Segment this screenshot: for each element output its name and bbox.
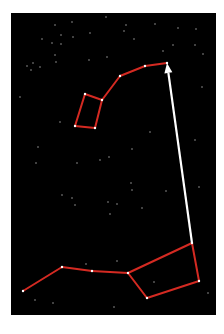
little-dipper-line	[102, 76, 120, 100]
big-dipper-line	[147, 281, 199, 298]
background-star	[177, 27, 178, 28]
background-star	[89, 32, 90, 33]
big-dipper-star-bd-merak	[198, 280, 200, 282]
background-star	[116, 203, 117, 204]
background-star	[30, 69, 31, 70]
background-star	[154, 23, 155, 24]
big-dipper-line	[128, 243, 192, 273]
background-star	[99, 159, 100, 160]
background-star	[26, 65, 27, 66]
background-star	[54, 54, 55, 55]
background-star	[71, 21, 72, 22]
background-star	[85, 263, 86, 264]
background-star	[131, 148, 132, 149]
big-dipper-star-bd-bowl-1	[127, 272, 129, 274]
background-star	[202, 53, 203, 54]
background-star	[108, 156, 109, 157]
pointer-arrow	[164, 63, 192, 243]
background-star	[71, 197, 72, 198]
background-star	[201, 86, 202, 87]
background-star	[125, 24, 126, 25]
big-dipper-star-bd-handle-3	[91, 270, 93, 272]
background-star	[39, 66, 40, 67]
background-star	[172, 44, 173, 45]
arrow-shaft	[168, 73, 192, 243]
constellation-stars	[22, 62, 200, 299]
little-dipper-line	[75, 126, 95, 128]
background-star	[88, 59, 89, 60]
background-star	[109, 213, 110, 214]
background-star	[59, 121, 60, 122]
background-star	[133, 38, 134, 39]
background-star	[60, 43, 61, 44]
background-star	[162, 50, 163, 51]
little-dipper-star-ld-6	[74, 125, 76, 127]
background-star	[37, 146, 38, 147]
big-dipper-star-bd-dubhe	[191, 242, 193, 244]
background-star	[60, 34, 61, 35]
background-star	[130, 182, 131, 183]
little-dipper-line	[145, 63, 167, 66]
background-star	[76, 162, 77, 163]
little-dipper-line	[85, 94, 102, 100]
big-dipper-line	[92, 271, 128, 273]
little-dipper-star-ld-4	[101, 99, 103, 101]
background-star	[52, 302, 53, 303]
background-star	[207, 292, 208, 293]
background-star	[106, 56, 107, 57]
background-star	[54, 24, 55, 25]
background-star	[113, 306, 114, 307]
little-dipper-star-ld-5	[84, 93, 86, 95]
big-dipper-star-bd-handle-end	[22, 290, 24, 292]
background-star	[195, 28, 196, 29]
background-star	[19, 96, 20, 97]
background-star	[51, 42, 52, 43]
star-chart	[0, 0, 224, 334]
little-dipper-star-ld-2	[144, 65, 146, 67]
little-dipper-star-ld-7	[94, 127, 96, 129]
little-dipper-line	[75, 94, 85, 126]
big-dipper-line	[192, 243, 199, 281]
background-star	[194, 44, 195, 45]
arrow-head-icon	[164, 63, 172, 73]
background-star	[123, 30, 124, 31]
background-star	[72, 36, 73, 37]
background-star	[165, 190, 166, 191]
little-dipper-star-ld-3	[119, 75, 121, 77]
background-star	[131, 189, 132, 190]
background-star	[153, 281, 154, 282]
background-star	[116, 260, 117, 261]
little-dipper-line	[95, 100, 102, 128]
background-star	[41, 38, 42, 39]
big-dipper-line	[128, 273, 147, 298]
background-star	[34, 299, 35, 300]
background-star	[107, 201, 108, 202]
big-dipper-line	[62, 267, 92, 271]
big-dipper-star-bd-handle-2	[61, 266, 63, 268]
background-star	[141, 207, 142, 208]
big-dipper-line	[23, 267, 62, 291]
background-star	[61, 194, 62, 195]
background-star	[105, 16, 106, 17]
little-dipper-line	[120, 66, 145, 76]
background-star	[198, 186, 199, 187]
background-star	[149, 131, 150, 132]
background-star	[194, 139, 195, 140]
background-star	[32, 62, 33, 63]
little-dipper-star-polaris	[166, 62, 168, 64]
big-dipper-star-bd-bowl-2	[146, 297, 148, 299]
background-star	[74, 204, 75, 205]
background-star	[35, 162, 36, 163]
background-star	[55, 61, 56, 62]
